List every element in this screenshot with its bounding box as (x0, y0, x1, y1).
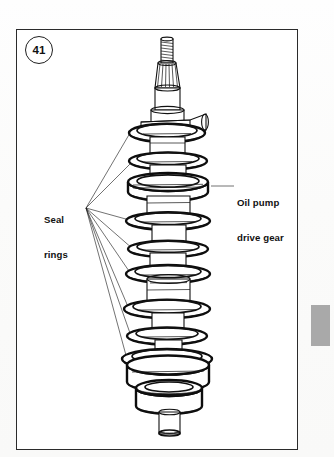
shaft-spline-cone (155, 61, 180, 88)
seal-rings-leader-lines (86, 133, 133, 359)
label-seal-rings-line1: Seal (44, 214, 68, 226)
figure-number-text: 41 (32, 44, 45, 56)
page-section-tab (311, 305, 330, 346)
shaft-threaded-tip (161, 37, 173, 63)
label-seal-rings-line2: rings (44, 249, 68, 261)
label-oil-pump-drive-gear: Oil pump drive gear (237, 174, 284, 267)
label-oil-pump-line1: Oil pump (237, 197, 284, 209)
label-seal-rings: Seal rings (44, 191, 68, 284)
figure-number-badge: 41 (25, 36, 53, 64)
figure-page: .ln { fill:none; stroke:#111; stroke-wid… (0, 0, 334, 457)
bottom-shaft-stub (159, 409, 180, 436)
label-oil-pump-line2: drive gear (237, 232, 284, 244)
